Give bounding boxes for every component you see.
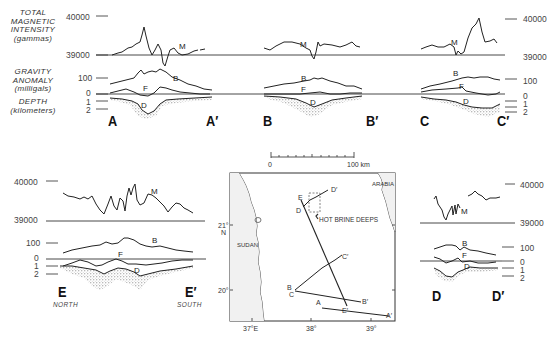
track-b: [295, 291, 361, 302]
ticks-top-left: [96, 16, 108, 109]
ticks-bottom-left: [46, 181, 58, 274]
profile-b-d-label: D: [310, 98, 316, 107]
profile-b-f-label: F: [301, 85, 306, 94]
track-c: [295, 255, 342, 290]
profile-d-b-label: B: [462, 239, 467, 248]
profile-c-m-label: M: [451, 38, 458, 47]
profile-a: M B F D: [110, 27, 212, 119]
profile-e-f-label: F: [118, 250, 123, 259]
map-lat-n: N: [221, 229, 226, 236]
map-lat-21: 21°: [218, 222, 229, 229]
profile-c-b-label: B: [453, 69, 458, 78]
map-lon-37e: 37°E: [243, 325, 259, 332]
profile-a-magnetic: [112, 27, 205, 66]
diagram-canvas: M B F D M B F D M B F D M: [0, 0, 556, 338]
map-lat-20: 20°: [218, 287, 229, 294]
profile-b: M B F D: [264, 40, 362, 117]
profile-e-free-air: [63, 259, 193, 266]
map-scale-start: 0: [268, 161, 272, 168]
profile-b-b-label: B: [301, 74, 306, 83]
map-label-c-prime: C′: [342, 253, 349, 260]
profile-c-d-label: D: [463, 97, 469, 106]
map-label-hot-brine-deeps: HOT BRINE DEEPS: [319, 216, 379, 223]
map-label-c: C: [289, 291, 294, 298]
profile-c-f-label: F: [459, 82, 464, 91]
profile-a-free-air: [110, 87, 210, 96]
location-map: E D′ D C′ B C B′ E′ A A′ HOT BRINE DEEPS…: [218, 152, 395, 332]
map-label-arabia: ARABIA: [372, 181, 394, 187]
ticks-bottom-right: [502, 184, 515, 276]
profile-b-magnetic: [264, 42, 360, 59]
profile-d-m-label: M: [461, 207, 468, 216]
profile-e: M B F D: [60, 184, 193, 290]
profile-a-f-label: F: [143, 84, 148, 93]
profile-a-sediment: [110, 97, 212, 119]
baselines-d: [420, 223, 515, 261]
map-lon-39: 39°: [366, 325, 377, 332]
profile-e-bouguer: [63, 238, 193, 253]
profile-c-magnetic: [421, 18, 497, 55]
profile-a-b-label: B: [173, 74, 178, 83]
map-label-d: D: [296, 207, 301, 214]
map-label-d-prime: D′: [331, 186, 338, 193]
ticks-top-right: [505, 19, 517, 112]
map-label-e: E: [298, 194, 303, 201]
profile-e-b-label: B: [152, 236, 157, 245]
track-d: [303, 190, 328, 207]
profile-e-d-label: D: [134, 266, 140, 275]
hot-brine-arrow-icon: [316, 214, 318, 219]
map-label-a: A: [316, 299, 321, 306]
track-a: [322, 308, 389, 316]
map-label-a-prime: A′: [386, 312, 393, 319]
profile-a-m-label: M: [179, 42, 186, 51]
baselines-e: [46, 221, 206, 259]
map-label-b: B: [287, 284, 292, 291]
map-scale-end: 100 km: [347, 161, 370, 168]
map-lon-38: 38°: [306, 325, 317, 332]
map-label-e-prime: E′: [342, 307, 349, 314]
profile-d-d-label: D: [464, 262, 470, 271]
profile-e-magnetic: [63, 184, 193, 214]
map-label-b-prime: B′: [362, 298, 369, 305]
profile-b-m-label: M: [300, 40, 307, 49]
profile-a-d-label: D: [141, 101, 147, 110]
profile-c: M B F D: [421, 18, 500, 117]
profile-e-m-label: M: [151, 187, 158, 196]
profile-c-sediment: [421, 97, 500, 117]
map-scale-bar: [271, 152, 354, 158]
profile-d-f-label: F: [462, 251, 467, 260]
profile-d: M B F D: [434, 191, 500, 282]
profile-b-bouguer: [264, 78, 362, 89]
map-label-sudan: SUDAN: [237, 242, 258, 248]
